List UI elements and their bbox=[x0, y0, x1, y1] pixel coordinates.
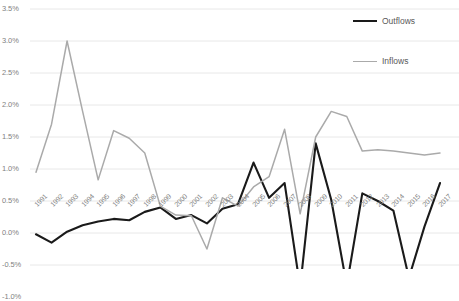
y-axis-tick-label: 3.0% bbox=[2, 37, 30, 45]
legend: Outflows Inflows bbox=[353, 14, 453, 94]
legend-swatch-outflows bbox=[353, 20, 377, 22]
legend-item-outflows[interactable]: Outflows bbox=[353, 14, 453, 28]
y-axis-tick-label: 2.5% bbox=[2, 69, 30, 77]
y-axis-tick-label: 2.0% bbox=[2, 101, 30, 109]
y-axis-tick-label: 1.5% bbox=[2, 133, 30, 141]
legend-item-inflows[interactable]: Inflows bbox=[353, 54, 453, 68]
legend-label-inflows: Inflows bbox=[382, 56, 408, 66]
y-axis-tick-label: 1.0% bbox=[2, 165, 30, 173]
y-axis-tick-label: -0.5% bbox=[2, 261, 30, 269]
y-axis-tick-label: 3.5% bbox=[2, 5, 30, 13]
y-axis-tick-label: 0.5% bbox=[2, 197, 30, 205]
y-axis-tick-label: -1.0% bbox=[2, 293, 30, 301]
y-axis-tick-label: 0.0% bbox=[2, 229, 30, 237]
legend-label-outflows: Outflows bbox=[382, 16, 415, 26]
legend-swatch-inflows bbox=[353, 61, 377, 62]
